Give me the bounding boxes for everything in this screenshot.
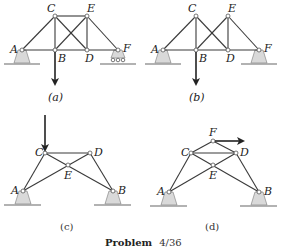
svg-text:A: A [9,43,18,56]
panel-label-c: (c) [60,221,74,232]
svg-text:D: D [93,146,103,159]
svg-text:F: F [122,42,131,55]
panel-a-joints [20,14,120,52]
svg-text:A: A [150,43,159,56]
panel-a-supports [4,50,136,64]
svg-text:D: D [239,146,249,159]
figure-caption: Problem 4/36 [105,232,182,248]
svg-text:E: E [63,169,72,182]
roller-icon [121,58,125,62]
svg-text:A: A [156,185,165,198]
panel-a-members [22,16,118,50]
roller-icon [116,58,120,62]
svg-text:E: E [86,2,95,15]
panel-label-a: (a) [48,91,63,104]
panel-c: A B C D E (c) [4,115,131,232]
svg-text:F: F [263,42,272,55]
svg-text:A: A [10,184,19,197]
caption-number: 4/36 [159,237,181,248]
panel-b: A B C D E F (b) [145,2,277,104]
panel-b-members [163,16,259,50]
panel-b-joints [161,14,261,52]
svg-text:C: C [47,2,56,15]
svg-text:D: D [225,52,235,65]
svg-text:D: D [84,52,94,65]
caption-prefix: Problem [105,237,153,248]
svg-text:E: E [208,169,217,182]
svg-text:E: E [227,2,236,15]
panel-label-d: (d) [205,221,219,232]
svg-text:C: C [35,146,44,159]
svg-text:B: B [263,185,272,198]
svg-text:B: B [198,52,207,65]
svg-text:C: C [181,146,190,159]
svg-text:B: B [117,184,126,197]
panel-label-b: (b) [189,91,205,104]
panel-a: A B C D E F (a) [4,2,136,104]
roller-icon [111,58,115,62]
panel-d: A B C D E F (d) [150,126,277,232]
svg-text:C: C [188,2,197,15]
svg-text:B: B [57,52,66,65]
svg-text:F: F [208,126,217,139]
truss-figure: A B C D E F (a) A B C D E F [0,0,284,248]
